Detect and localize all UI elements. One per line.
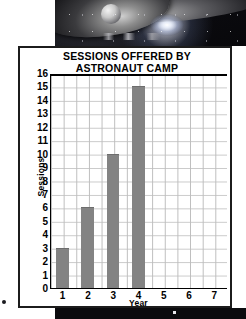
space-scene-photo: [55, 0, 246, 46]
y-tick-label: 15: [37, 82, 48, 92]
bar: [132, 86, 145, 288]
y-tick-label: 9: [42, 163, 48, 173]
y-tick-label: 12: [37, 123, 48, 133]
plot-area: 012345678910111213141516 1234567: [50, 74, 227, 289]
bottom-strip-speck: [173, 311, 176, 314]
y-tick-label: 4: [42, 230, 48, 240]
debris-streak: [103, 33, 173, 40]
y-tick-label: 2: [42, 257, 48, 267]
chart-title-line-1: SESSIONS OFFERED BY: [20, 51, 234, 63]
y-tick-label: 16: [37, 69, 48, 79]
y-tick-label: 14: [37, 96, 48, 106]
bar-chart-card: SESSIONS OFFERED BY ASTRONAUT CAMP Sessi…: [18, 46, 232, 308]
corner-dot-mark: [2, 300, 6, 304]
y-tick-label: 8: [42, 177, 48, 187]
y-tick-label: 13: [37, 109, 48, 119]
y-tick-label: 7: [42, 190, 48, 200]
bottom-photo-strip: [55, 308, 246, 319]
bar: [81, 207, 94, 288]
bar: [56, 248, 69, 288]
plot-top-rule: [51, 74, 227, 76]
chart-title-line-2: ASTRONAUT CAMP: [20, 63, 234, 75]
chart-title: SESSIONS OFFERED BY ASTRONAUT CAMP: [20, 51, 234, 74]
y-tick-label: 1: [42, 271, 48, 281]
x-axis-label: Year: [50, 298, 227, 308]
y-tick-label: 0: [42, 284, 48, 294]
y-tick-label: 11: [37, 136, 48, 146]
y-tick-label: 5: [42, 217, 48, 227]
y-tick-label: 3: [42, 244, 48, 254]
y-tick-label: 10: [37, 150, 48, 160]
y-tick-label: 6: [42, 203, 48, 213]
bar: [107, 154, 120, 288]
